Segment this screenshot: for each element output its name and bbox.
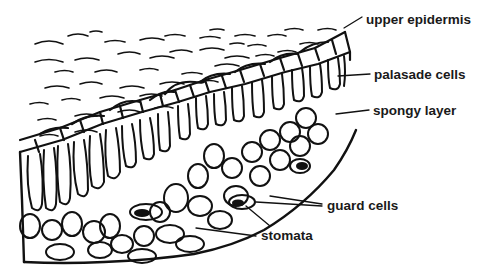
- label-palasade-cells: palasade cells: [374, 68, 466, 82]
- label-guard-cells: guard cells: [327, 199, 398, 213]
- label-spongy-layer: spongy layer: [373, 104, 456, 118]
- label-stomata: stomata: [261, 229, 313, 243]
- leaf-cross-section-drawing: [0, 0, 484, 275]
- label-upper-epidermis: upper epidermis: [366, 13, 471, 27]
- palisade-cells-layer: [28, 56, 346, 210]
